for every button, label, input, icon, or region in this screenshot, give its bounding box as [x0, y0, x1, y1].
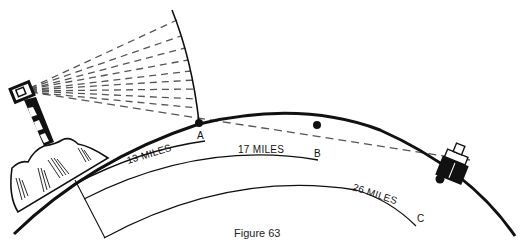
label-13-miles: 13 MILES: [125, 142, 173, 166]
radial-line: [75, 180, 105, 238]
point-b-dot: [313, 121, 321, 129]
point-a-dot: [195, 119, 203, 127]
label-c: C: [417, 213, 425, 224]
label-17-miles: 17 MILES: [238, 144, 284, 155]
figure-caption: Figure 63: [234, 227, 280, 239]
vertical-limit-arc: [172, 10, 199, 122]
label-26-miles: 26 MILES: [351, 181, 398, 206]
label-a: A: [197, 130, 204, 141]
light-beam-rays: [30, 20, 198, 108]
ship-dot: [436, 175, 445, 184]
label-b: B: [314, 148, 321, 159]
arc-17-miles: [84, 155, 318, 199]
figure-63-diagram: A B C 13 MILES 17 MILES 26 MILES Figure …: [0, 0, 521, 249]
